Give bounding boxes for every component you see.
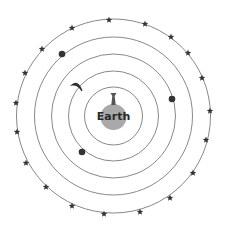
antenna-tower-icon: [111, 93, 117, 105]
star-icon: [167, 195, 173, 201]
star-icon: [22, 70, 28, 76]
star-icon: [142, 21, 148, 27]
star-icon: [185, 50, 191, 56]
star-icon: [168, 34, 174, 40]
star-icon: [69, 203, 75, 209]
star-icon: [199, 75, 205, 81]
star-icon: [43, 184, 49, 190]
star-icon: [106, 17, 112, 23]
star-icon: [101, 211, 107, 217]
geocentric-diagram: Earth: [0, 0, 226, 229]
earth: Earth: [97, 93, 130, 130]
planet-upper-left: [59, 51, 66, 58]
planet-lower-left: [79, 149, 86, 156]
earth-label: Earth: [97, 110, 130, 123]
planet-right: [169, 96, 176, 103]
star-icon: [14, 129, 20, 135]
star-icon: [13, 100, 19, 106]
star-icon: [23, 160, 29, 166]
